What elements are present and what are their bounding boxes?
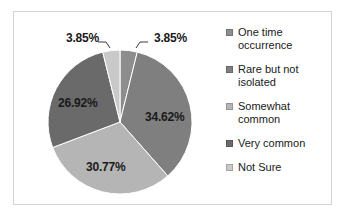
slice-label-somewhat-common: 30.77% (86, 160, 126, 174)
legend-item-label: Rare but not isolated (238, 63, 331, 89)
legend-swatch-icon (226, 164, 233, 171)
leader-line-not-sure (98, 42, 110, 48)
chart-frame: 3.85% 34.62% 30.77% 26.92% 3.85% One tim… (13, 11, 332, 205)
pie-plot-area: 3.85% 34.62% 30.77% 26.92% 3.85% (14, 12, 224, 204)
slice-label-one-time-occurrence: 3.85% (154, 31, 187, 45)
pie-chart-graphic (14, 12, 224, 204)
legend-swatch-icon (226, 29, 233, 36)
pie-chart-screenshot: 3.85% 34.62% 30.77% 26.92% 3.85% One tim… (0, 0, 347, 220)
legend-item[interactable]: Somewhat common (226, 100, 331, 126)
slice-label-not-sure: 3.85% (66, 31, 99, 45)
chart-legend: One time occurrenceRare but not isolated… (226, 26, 331, 185)
legend-item[interactable]: Very common (226, 137, 331, 150)
legend-item[interactable]: One time occurrence (226, 26, 331, 52)
legend-swatch-icon (226, 103, 233, 110)
legend-item-label: Somewhat common (238, 100, 331, 126)
legend-item-label: Very common (238, 137, 305, 150)
legend-swatch-icon (226, 66, 233, 73)
legend-swatch-icon (226, 140, 233, 147)
legend-item[interactable]: Rare but not isolated (226, 63, 331, 89)
legend-item[interactable]: Not Sure (226, 161, 331, 174)
leader-line-group (98, 42, 148, 48)
leader-line-one-time (136, 42, 148, 48)
slice-label-very-common: 26.92% (58, 96, 98, 110)
legend-item-label: Not Sure (238, 161, 281, 174)
slice-label-rare-but-not-isolated: 34.62% (145, 110, 185, 124)
legend-item-label: One time occurrence (238, 26, 331, 52)
